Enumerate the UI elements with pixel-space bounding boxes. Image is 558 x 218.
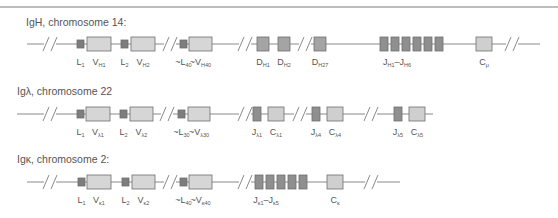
segment-j [312, 107, 320, 121]
segment-j [380, 37, 388, 51]
segment-l [178, 110, 185, 118]
segment-c [476, 37, 492, 51]
segment-label: DH1 [256, 57, 270, 68]
segment-v [87, 37, 111, 51]
gene-locus-diagram: L1VH1L2VH2~L40~VH40DH1DH2DH27CμJH1–JH6L1… [0, 0, 558, 218]
segment-v [189, 37, 212, 51]
segment-label: Vκ1 [93, 195, 105, 206]
segment-v [87, 175, 111, 189]
segment-j [299, 175, 307, 189]
locus-row-1: L1Vλ1L2Vλ2~L30~Vλ30Jλ1Cλ1Jλ4Cλ4Jλ5Cλ5 [17, 107, 433, 138]
locus-row-0: L1VH1L2VH2~L40~VH40DH1DH2DH27CμJH1–JH6 [27, 37, 540, 68]
segment-l [122, 178, 129, 186]
segment-d [257, 37, 269, 51]
segment-label: ~Vλ30 [189, 127, 209, 138]
segment-j [435, 37, 443, 51]
segment-l [78, 178, 85, 186]
segment-label: Cμ [479, 57, 489, 68]
segment-label: Cλ5 [411, 127, 423, 138]
segment-label: Jλ5 [393, 127, 403, 138]
segment-label: L2 [119, 127, 127, 138]
segment-j [394, 107, 402, 121]
segment-label: Vλ2 [136, 127, 148, 138]
locus-row-2: L1Vκ1L2Vκ2~L40~Vκ40CκJκ1–Jκ5 [27, 175, 400, 206]
segment-label: Vλ1 [92, 127, 104, 138]
segment-l [77, 110, 84, 118]
segment-v [130, 107, 153, 121]
segment-v [189, 175, 212, 189]
segment-d [314, 37, 326, 51]
segment-c [327, 175, 343, 189]
segment-label: ~Vκ40 [190, 195, 210, 206]
segment-d [278, 37, 290, 51]
segment-label: ~VH40 [190, 57, 211, 68]
segment-l [180, 178, 187, 186]
segment-l [77, 40, 84, 48]
segment-label: Vκ2 [138, 195, 150, 206]
segment-label: DH2 [277, 57, 291, 68]
segment-label: L2 [121, 195, 129, 206]
segment-label: Cκ [330, 195, 340, 206]
segment-label: VH2 [136, 57, 149, 68]
segment-j [424, 37, 432, 51]
segment-label: ~L40 [175, 195, 191, 206]
segment-label: Jλ1 [252, 127, 262, 138]
segment-label: DH27 [312, 57, 329, 68]
segment-j [255, 175, 263, 189]
segment-v [132, 175, 155, 189]
segment-label: L1 [76, 127, 84, 138]
segment-c [268, 107, 284, 121]
segment-label: Cλ4 [329, 127, 341, 138]
segment-l [180, 40, 187, 48]
segment-label: ~L30 [173, 127, 189, 138]
segment-label: L1 [76, 57, 84, 68]
segment-l [121, 40, 128, 48]
segment-v [86, 107, 110, 121]
group-label: JH1–JH6 [383, 57, 411, 68]
segment-label: Cλ1 [270, 127, 282, 138]
segment-label: Jλ4 [311, 127, 321, 138]
segment-j [266, 175, 274, 189]
segment-c [409, 107, 425, 121]
segment-j [402, 37, 410, 51]
group-label: Jκ1–Jκ5 [253, 195, 279, 206]
segment-c [327, 107, 343, 121]
segment-j [253, 107, 261, 121]
segment-j [288, 175, 296, 189]
segment-j [391, 37, 399, 51]
segment-j [277, 175, 285, 189]
segment-l [120, 110, 127, 118]
segment-v [131, 37, 155, 51]
segment-label: L2 [120, 57, 128, 68]
segment-label: VH1 [92, 57, 105, 68]
segment-j [413, 37, 421, 51]
segment-label: L1 [77, 195, 85, 206]
segment-v [188, 107, 210, 121]
